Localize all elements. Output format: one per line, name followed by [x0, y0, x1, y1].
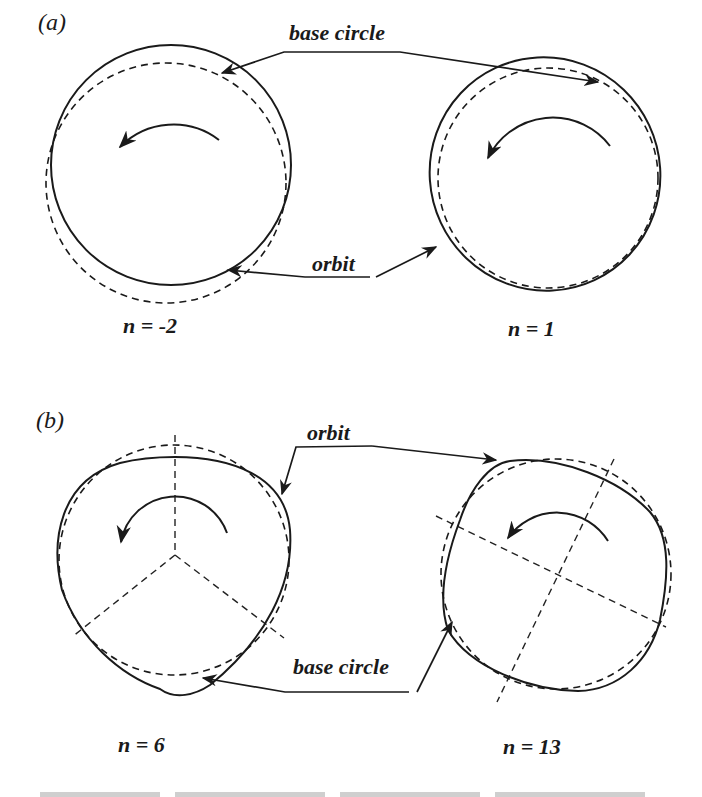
base-circle-curve [438, 68, 658, 288]
shape-n-minus-2: n = -2 [46, 45, 291, 338]
orbit-curve [51, 45, 291, 285]
orbit-curve [58, 457, 291, 695]
callout-label: base circle [293, 654, 389, 679]
symmetry-axis [497, 459, 614, 702]
n-label: n = 6 [118, 732, 165, 757]
panel-a: (a) n = -2 n = 1 base circle orbit [38, 9, 699, 341]
panel-b-label: (b) [36, 407, 64, 433]
n-label: n = 1 [508, 316, 555, 341]
shape-n-1: n = 1 [391, 19, 698, 341]
rotation-arrow-icon [488, 118, 610, 158]
panel-a-label: (a) [38, 9, 66, 35]
base-circle-curve [46, 63, 286, 303]
panel-b: (b) n = 6 n = 13 orb [36, 407, 671, 759]
leader-arrow-icon [417, 622, 452, 692]
shape-n-6: n = 6 [58, 435, 291, 757]
leader-arrow-icon [372, 446, 496, 460]
leader-arrow-icon [376, 247, 436, 277]
leader-arrow-icon [282, 446, 372, 494]
leader-arrow-icon [203, 678, 409, 692]
shape-n-13: n = 13 [436, 459, 671, 759]
rotation-arrow-icon [508, 513, 608, 541]
callout-label: base circle [289, 20, 385, 45]
orbit-diagram: (a) n = -2 n = 1 base circle orbit [0, 0, 702, 797]
rotation-arrow-icon [121, 496, 227, 542]
callout-top: orbit [282, 420, 496, 494]
symmetry-axis [175, 555, 284, 638]
truncated-caption [40, 792, 645, 797]
symmetry-axis [436, 516, 666, 627]
callout-label: orbit [307, 420, 351, 445]
rotation-arrow-icon [120, 125, 219, 147]
callout-label: orbit [312, 251, 356, 276]
callout-top: base circle [222, 20, 598, 82]
n-label: n = 13 [503, 734, 561, 759]
symmetry-axis [72, 555, 175, 637]
callout-bottom: orbit [228, 247, 436, 277]
n-label: n = -2 [123, 313, 177, 338]
leader-arrow-icon [287, 52, 598, 82]
